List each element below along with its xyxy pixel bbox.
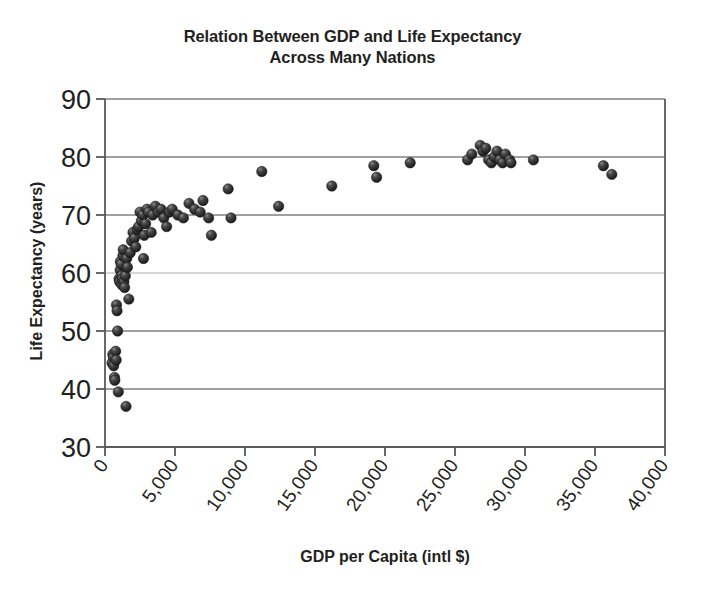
data-point xyxy=(113,387,123,397)
data-point xyxy=(178,213,188,223)
x-tick-label-5000: 5,000 xyxy=(138,455,182,506)
chart-title-line-1: Relation Between GDP and Life Expectancy xyxy=(0,26,705,47)
data-points-group xyxy=(107,140,617,411)
y-axis-title: Life Expectancy (years) xyxy=(28,126,46,416)
data-point xyxy=(405,158,415,168)
x-tick-label-40000: 40,000 xyxy=(622,455,673,515)
data-point xyxy=(506,158,516,168)
data-point xyxy=(598,161,608,171)
x-tick-label-35000: 35,000 xyxy=(552,455,603,515)
x-tick-label-15000: 15,000 xyxy=(272,455,323,515)
data-point xyxy=(467,149,477,159)
data-point xyxy=(119,282,129,292)
data-point xyxy=(138,253,148,263)
data-point xyxy=(203,213,213,223)
data-point xyxy=(481,143,491,153)
chart-figure: Relation Between GDP and Life Expectancy… xyxy=(0,0,705,593)
chart-title-line-2: Across Many Nations xyxy=(0,47,705,68)
x-tick-label-25000: 25,000 xyxy=(412,455,463,515)
data-point xyxy=(223,184,233,194)
data-point xyxy=(528,155,538,165)
y-tick-label-80: 80 xyxy=(61,143,91,173)
data-point xyxy=(122,262,132,272)
data-point xyxy=(257,166,267,176)
data-point xyxy=(121,401,131,411)
data-point xyxy=(110,375,120,385)
data-point xyxy=(369,161,379,171)
y-axis-ticks-group: 30405060708090 xyxy=(61,85,105,463)
data-point xyxy=(112,306,122,316)
x-axis-ticks-group: 05,00010,00015,00020,00025,00030,00035,0… xyxy=(89,447,672,515)
data-point xyxy=(371,172,381,182)
gridlines-group xyxy=(105,99,665,389)
y-tick-label-40: 40 xyxy=(61,375,91,405)
y-tick-label-30: 30 xyxy=(61,433,91,463)
chart-title: Relation Between GDP and Life Expectancy… xyxy=(0,26,705,68)
y-tick-label-60: 60 xyxy=(61,259,91,289)
data-point xyxy=(146,227,156,237)
y-tick-label-50: 50 xyxy=(61,317,91,347)
x-tick-label-20000: 20,000 xyxy=(342,455,393,515)
y-tick-label-70: 70 xyxy=(61,201,91,231)
scatter-plot-canvas: 30405060708090 05,00010,00015,00020,0002… xyxy=(0,0,705,593)
y-tick-label-90: 90 xyxy=(61,85,91,115)
data-point xyxy=(124,294,134,304)
data-point xyxy=(273,201,283,211)
data-point xyxy=(226,213,236,223)
x-tick-label-30000: 30,000 xyxy=(482,455,533,515)
data-point xyxy=(327,181,337,191)
x-axis-title: GDP per Capita (intl $) xyxy=(105,548,665,566)
data-point xyxy=(111,355,121,365)
data-point xyxy=(198,195,208,205)
data-point xyxy=(131,242,141,252)
x-tick-label-10000: 10,000 xyxy=(202,455,253,515)
data-point xyxy=(607,169,617,179)
data-point xyxy=(206,230,216,240)
data-point xyxy=(112,326,122,336)
data-point xyxy=(161,221,171,231)
x-tick-label-0: 0 xyxy=(89,455,112,476)
